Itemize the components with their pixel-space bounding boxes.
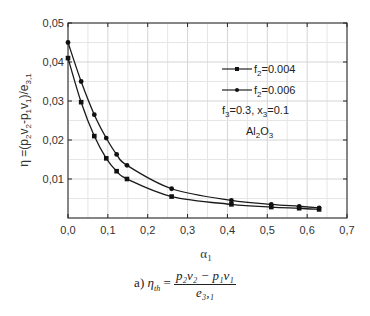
data-point <box>269 202 274 207</box>
data-point <box>79 79 84 84</box>
y-tick-label: 0,04 <box>43 56 64 68</box>
grid-lines <box>68 23 347 218</box>
x-tick-label: 0,0 <box>60 224 75 236</box>
legend-item-f2-0006: f2=0.006 <box>254 84 295 99</box>
data-point <box>92 134 97 139</box>
caption-fraction: p₂v₂ − p₁v₁ e₃,₁ <box>174 268 236 301</box>
series-line-0 <box>68 58 319 209</box>
x-tick-label: 0,6 <box>299 224 314 236</box>
y-tick-label: 0,01 <box>43 173 64 185</box>
x-tick-label: 0,3 <box>180 224 195 236</box>
x-tick-label: 0,2 <box>140 224 155 236</box>
data-point <box>169 194 174 199</box>
figure-caption: a) ηth = p₂v₂ − p₁v₁ e₃,₁ <box>0 268 370 301</box>
y-axis-label: η =(p2v2-p1v1)/e3,1 <box>17 73 33 167</box>
data-point <box>169 186 174 191</box>
x-axis-label: α1 <box>200 246 211 263</box>
data-point <box>114 169 119 174</box>
y-tick-label: 0,02 <box>43 134 64 146</box>
data-point <box>229 198 234 203</box>
x-tick-label: 0,1 <box>100 224 115 236</box>
caption-eta: ηth <box>147 275 160 290</box>
annotation-material: Al2O3 <box>246 125 274 140</box>
caption-equals: = <box>163 275 170 290</box>
data-point <box>114 152 119 157</box>
data-point <box>125 177 130 182</box>
annotation-parameters: f3=0.3, x3=0.1 <box>222 104 289 119</box>
data-point <box>125 163 130 168</box>
x-tick-label: 0,5 <box>260 224 275 236</box>
data-point <box>104 136 109 141</box>
x-tick-label: 0,7 <box>339 224 354 236</box>
data-point <box>297 204 302 209</box>
data-point <box>92 112 97 117</box>
caption-denominator: e₃,₁ <box>174 285 236 301</box>
data-point <box>317 205 322 210</box>
legend-item-f2-0004: f2=0.004 <box>254 63 295 78</box>
y-tick-label: 0,03 <box>43 95 64 107</box>
caption-label: a) <box>134 275 144 290</box>
data-point <box>66 40 71 45</box>
data-point <box>104 156 109 161</box>
axis-ticks: 0,00,10,20,30,40,50,60,70,010,020,030,04… <box>43 17 355 236</box>
x-tick-label: 0,4 <box>220 224 235 236</box>
caption-numerator: p₂v₂ − p₁v₁ <box>174 268 236 285</box>
data-point <box>79 100 84 105</box>
data-point <box>66 56 71 61</box>
y-tick-label: 0,05 <box>43 17 64 29</box>
